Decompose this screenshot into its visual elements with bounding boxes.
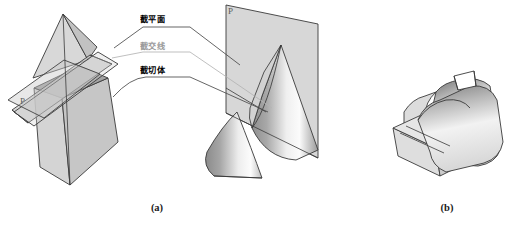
label-cut-solid: 截切体 xyxy=(140,63,210,75)
label-intersection-line-box: 截交线 xyxy=(140,39,210,55)
label-cutting-plane-box: 截平面 xyxy=(140,12,210,28)
caption-a: (a) xyxy=(151,202,164,214)
caption-b: (b) xyxy=(441,202,454,214)
figure-b-solid xyxy=(393,71,503,176)
figure-container: P P xyxy=(0,0,517,229)
plane-letter-right: P xyxy=(228,6,233,16)
label-intersection-line: 截交线 xyxy=(140,39,210,51)
pyramid-assembly: P xyxy=(8,14,118,185)
label-cutting-plane: 截平面 xyxy=(140,12,210,24)
technical-diagram: P P xyxy=(0,0,517,229)
leader-cut-solid-left xyxy=(113,77,190,97)
plane-letter-left: P xyxy=(20,96,25,106)
label-cut-solid-box: 截切体 xyxy=(140,63,210,79)
